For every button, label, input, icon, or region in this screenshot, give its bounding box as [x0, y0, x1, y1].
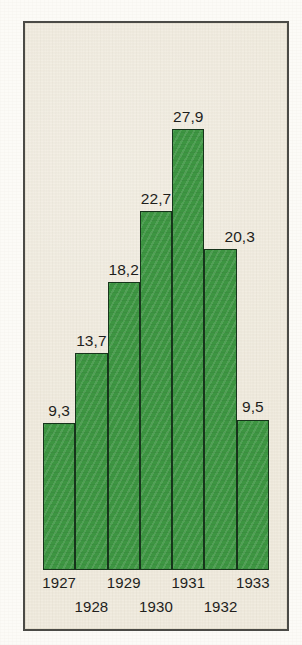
bar-1932[interactable] — [204, 249, 236, 570]
x-tick-1931: 1931 — [171, 575, 205, 590]
bar-value-label-1931: 27,9 — [173, 109, 204, 125]
x-tick-1932: 1932 — [204, 599, 238, 614]
x-tick-1929: 1929 — [107, 575, 141, 590]
bar-group-1933[interactable]: 9,5 — [237, 420, 269, 570]
x-axis-labels: 1927 1928 1929 1930 1931 1932 1933 — [25, 565, 287, 623]
bar-group-1927[interactable]: 9,3 — [43, 423, 75, 570]
bar-group-1931[interactable]: 27,9 — [172, 129, 204, 570]
x-tick-1933: 1933 — [236, 575, 270, 590]
bar-group-1930[interactable]: 22,7 — [140, 211, 172, 570]
x-tick-1928: 1928 — [75, 599, 109, 614]
bar-1929[interactable] — [108, 282, 140, 570]
bar-value-label-1929: 18,2 — [108, 262, 139, 278]
bar-1931[interactable] — [172, 129, 204, 570]
bar-value-label-1930: 22,7 — [141, 191, 172, 207]
scanned-page: 9,3 13,7 18,2 22,7 27,9 20,3 — [0, 0, 302, 645]
bar-group-1928[interactable]: 13,7 — [75, 353, 107, 570]
x-tick-1927: 1927 — [42, 575, 76, 590]
bar-1930[interactable] — [140, 211, 172, 570]
bar-value-label-1927: 9,3 — [48, 403, 70, 419]
bar-value-label-1928: 13,7 — [76, 333, 107, 349]
bar-group-1932[interactable]: 20,3 — [204, 249, 236, 570]
chart-frame: 9,3 13,7 18,2 22,7 27,9 20,3 — [23, 21, 289, 631]
bar-1927[interactable] — [43, 423, 75, 570]
bar-group-1929[interactable]: 18,2 — [108, 282, 140, 570]
plot-area: 9,3 13,7 18,2 22,7 27,9 20,3 — [25, 23, 287, 629]
bar-value-label-1933: 9,5 — [242, 399, 264, 415]
bar-value-label-1932: 20,3 — [224, 229, 255, 245]
bar-1928[interactable] — [75, 353, 107, 570]
x-tick-1930: 1930 — [139, 599, 173, 614]
bar-1933[interactable] — [237, 420, 269, 570]
